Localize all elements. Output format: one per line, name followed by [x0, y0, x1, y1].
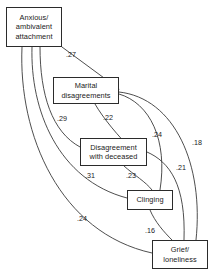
edge-coefficient-anxious-to-grief: .24	[77, 215, 87, 223]
edge-coefficient-anxious-to-clinging: .31	[85, 172, 95, 180]
edge-path	[150, 210, 172, 240]
edge-coefficient-anxious-to-marital: .27	[66, 51, 76, 59]
edge-coefficient-disagreement-to-grief: .21	[176, 164, 186, 172]
path-diagram: Anxious/ ambivalent attachmentMarital di…	[0, 0, 210, 273]
edge-coefficient-clinging-to-grief: .16	[145, 227, 155, 235]
edge-coefficient-anxious-to-disagreement: .29	[57, 115, 67, 123]
edge-coefficient-marital-to-disagreement: .22	[103, 114, 113, 122]
edge-path	[32, 47, 127, 198]
edge-coefficient-marital-to-grief: .18	[192, 139, 202, 147]
node-clinging[interactable]: Clinging	[127, 190, 173, 210]
node-label: Anxious/ ambivalent attachment	[13, 13, 54, 41]
node-label: Clinging	[134, 195, 165, 204]
node-grief[interactable]: Grief/ loneliness	[152, 240, 208, 269]
node-label: Grief/ loneliness	[161, 245, 198, 263]
node-disagreement[interactable]: Disagreement with deceased	[80, 138, 147, 166]
node-marital[interactable]: Marital disagreements	[53, 77, 119, 104]
edge-coefficient-disagreement-to-clinging: .23	[126, 172, 136, 180]
node-label: Marital disagreements	[59, 81, 112, 99]
node-label: Disagreement with deceased	[88, 143, 140, 161]
edge-coefficient-marital-to-clinging: .24	[152, 131, 162, 139]
node-anxious[interactable]: Anxious/ ambivalent attachment	[6, 7, 62, 47]
